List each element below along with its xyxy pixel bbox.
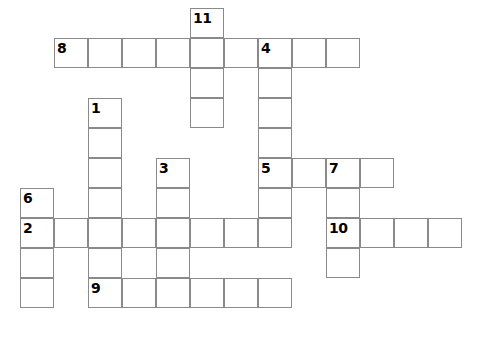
crossword-puzzle: 1184135762109: [0, 0, 499, 339]
crossword-cell[interactable]: [360, 218, 394, 248]
crossword-cell[interactable]: [20, 188, 54, 218]
crossword-cell[interactable]: [156, 38, 190, 68]
crossword-cell[interactable]: [88, 158, 122, 188]
crossword-cell[interactable]: [258, 188, 292, 218]
crossword-cell[interactable]: [190, 8, 224, 38]
crossword-cell[interactable]: [258, 218, 292, 248]
crossword-cell[interactable]: [190, 68, 224, 98]
crossword-cell[interactable]: [122, 38, 156, 68]
crossword-cell[interactable]: [156, 158, 190, 188]
crossword-cell[interactable]: [224, 38, 258, 68]
crossword-cell[interactable]: [156, 248, 190, 278]
crossword-cell[interactable]: [156, 278, 190, 308]
crossword-cell[interactable]: [88, 98, 122, 128]
crossword-cell[interactable]: [224, 218, 258, 248]
crossword-cell[interactable]: [122, 218, 156, 248]
crossword-cell[interactable]: [258, 38, 292, 68]
crossword-cell[interactable]: [190, 278, 224, 308]
crossword-cell[interactable]: [54, 38, 88, 68]
crossword-cell[interactable]: [156, 218, 190, 248]
crossword-cell[interactable]: [258, 158, 292, 188]
crossword-cell[interactable]: [122, 278, 156, 308]
crossword-cell[interactable]: [326, 188, 360, 218]
crossword-cell[interactable]: [428, 218, 462, 248]
crossword-cell[interactable]: [258, 278, 292, 308]
crossword-cell[interactable]: [190, 38, 224, 68]
crossword-cell[interactable]: [394, 218, 428, 248]
crossword-cell[interactable]: [326, 248, 360, 278]
crossword-cell[interactable]: [190, 218, 224, 248]
crossword-cell[interactable]: [326, 158, 360, 188]
crossword-cell[interactable]: [88, 278, 122, 308]
crossword-cell[interactable]: [258, 128, 292, 158]
crossword-cell[interactable]: [20, 248, 54, 278]
crossword-cell[interactable]: [258, 98, 292, 128]
crossword-cell[interactable]: [292, 38, 326, 68]
crossword-cell[interactable]: [88, 188, 122, 218]
crossword-cell[interactable]: [326, 218, 360, 248]
crossword-cell[interactable]: [88, 218, 122, 248]
crossword-cell[interactable]: [190, 98, 224, 128]
crossword-cell[interactable]: [88, 38, 122, 68]
crossword-cell[interactable]: [88, 128, 122, 158]
crossword-cell[interactable]: [156, 188, 190, 218]
crossword-cell[interactable]: [20, 218, 54, 248]
crossword-cell[interactable]: [88, 248, 122, 278]
crossword-cell[interactable]: [326, 38, 360, 68]
crossword-cell[interactable]: [360, 158, 394, 188]
crossword-cell[interactable]: [258, 68, 292, 98]
crossword-grid[interactable]: 1184135762109: [0, 0, 499, 339]
crossword-cell[interactable]: [292, 158, 326, 188]
crossword-cell[interactable]: [224, 278, 258, 308]
crossword-cell[interactable]: [54, 218, 88, 248]
crossword-cell[interactable]: [20, 278, 54, 308]
